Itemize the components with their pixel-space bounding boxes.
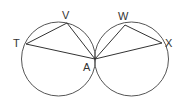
- label-V: V: [62, 9, 70, 21]
- label-T: T: [13, 37, 20, 49]
- two-circles-diagram: T V A W X: [0, 0, 190, 107]
- right-circle: [95, 22, 169, 96]
- label-W: W: [118, 10, 129, 22]
- label-A: A: [83, 61, 91, 73]
- left-circle: [22, 22, 96, 96]
- segment-AW: [95, 25, 125, 59]
- chord-segments: [26, 23, 162, 59]
- segment-AX: [95, 43, 162, 59]
- label-X: X: [165, 37, 173, 49]
- segment-WX: [125, 25, 162, 43]
